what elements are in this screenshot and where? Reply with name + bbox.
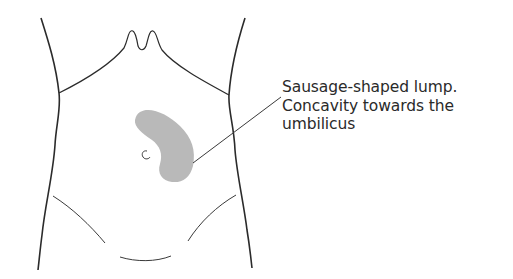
leader-line: [193, 97, 281, 163]
sausage-shaped-lump: [135, 110, 194, 182]
right-flank-outline: [229, 18, 252, 268]
annotation-line-1: Sausage-shaped lump.: [282, 78, 457, 97]
abdomen-drawing: [0, 0, 513, 279]
right-inguinal-line: [188, 195, 236, 241]
pubic-line: [120, 256, 171, 261]
left-inguinal-line: [53, 196, 105, 243]
costal-margin: [59, 31, 229, 95]
lump-annotation: Sausage-shaped lump. Concavity towards t…: [282, 78, 457, 134]
annotation-line-2: Concavity towards the: [282, 97, 457, 116]
umbilicus-icon: [142, 151, 150, 159]
abdomen-diagram: Sausage-shaped lump. Concavity towards t…: [0, 0, 513, 279]
annotation-line-3: umbilicus: [282, 115, 457, 134]
left-flank-outline: [38, 18, 59, 270]
